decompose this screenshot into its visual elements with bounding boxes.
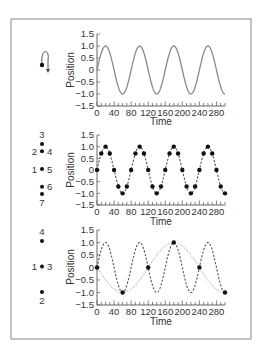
sample-point xyxy=(95,168,99,172)
position-dot xyxy=(40,192,44,196)
y-tick-label: 1.5 xyxy=(81,224,94,235)
x-tick-label: 80 xyxy=(126,107,137,118)
x-axis-label-1: Time xyxy=(150,216,172,227)
x-tick-label: 80 xyxy=(126,206,137,217)
sample-point xyxy=(137,144,141,148)
y-tick-label: −1.5 xyxy=(75,100,94,111)
sample-point xyxy=(108,151,112,155)
y-tick-label: 0.5 xyxy=(81,153,94,164)
x-tick-label: 200 xyxy=(174,306,190,317)
position-dot xyxy=(40,290,44,294)
sample-point xyxy=(201,151,205,155)
x-tick-label: 40 xyxy=(109,107,120,118)
frame-number: 3 xyxy=(39,129,44,140)
sample-point xyxy=(172,144,176,148)
y-tick-label: −1.0 xyxy=(75,88,94,99)
arrow-down-icon xyxy=(46,69,50,73)
sample-point xyxy=(197,265,201,269)
sample-point xyxy=(214,168,218,172)
y-tick-label: 0 xyxy=(89,164,94,175)
x-tick-label: 40 xyxy=(109,206,120,217)
y-tick-label: 1.0 xyxy=(81,237,94,248)
x-tick-label: 240 xyxy=(191,306,207,317)
series-line xyxy=(97,243,225,293)
x-axis-label-0: Time xyxy=(150,116,172,127)
y-tick-label: 0 xyxy=(89,262,94,273)
x-tick-label: 80 xyxy=(126,306,137,317)
position-dot xyxy=(40,239,44,243)
sample-point xyxy=(172,240,176,244)
x-tick-label: 280 xyxy=(209,206,225,217)
sample-point xyxy=(146,265,150,269)
sample-point xyxy=(95,265,99,269)
panel-aliased-sampling: 1.51.00.50−0.5−1.0−1.5040801201602002402… xyxy=(75,224,227,317)
sample-point xyxy=(120,191,124,195)
frame-number: 1 xyxy=(32,261,37,272)
panel-fast-sampling: 1.51.00.50−0.5−1.0−1.5040801201602002402… xyxy=(75,129,227,217)
sample-point xyxy=(206,144,210,148)
y-axis-label-1: Position xyxy=(65,152,76,188)
x-tick-label: 280 xyxy=(209,306,225,317)
y-tick-label: 1.5 xyxy=(81,28,94,39)
y-tick-label: −0.5 xyxy=(75,176,94,187)
frame-number: 5 xyxy=(47,164,52,175)
y-tick-label: 0.5 xyxy=(81,249,94,260)
position-diagram-fast: 3241567 xyxy=(32,129,53,208)
y-tick-label: 1.0 xyxy=(81,40,94,51)
y-tick-label: −1.5 xyxy=(75,199,94,210)
panel-continuous-motion: 1.51.00.50−0.5−1.0−1.5040801201602002402… xyxy=(75,28,225,118)
sample-point xyxy=(125,184,129,188)
frame-number: 2 xyxy=(32,146,37,157)
x-tick-label: 0 xyxy=(94,306,99,317)
sample-point xyxy=(176,151,180,155)
position-dot xyxy=(40,149,44,153)
sample-point xyxy=(223,290,227,294)
x-tick-label: 200 xyxy=(174,107,190,118)
y-tick-label: 0.5 xyxy=(81,52,94,63)
y-tick-label: −1.5 xyxy=(75,299,94,310)
x-tick-label: 280 xyxy=(209,107,225,118)
sample-point xyxy=(167,151,171,155)
sample-point xyxy=(184,184,188,188)
x-tick-label: 40 xyxy=(109,306,120,317)
sample-point xyxy=(223,191,227,195)
y-tick-label: 1.0 xyxy=(81,141,94,152)
sample-point xyxy=(210,151,214,155)
x-tick-label: 200 xyxy=(174,206,190,217)
position-dot xyxy=(40,142,44,146)
frame-number: 1 xyxy=(32,164,37,175)
sample-point xyxy=(116,184,120,188)
position-dot xyxy=(40,63,44,67)
rotation-icon xyxy=(40,52,50,73)
sample-point xyxy=(159,184,163,188)
aliasing-figure: 1.51.00.50−0.5−1.0−1.5040801201602002402… xyxy=(0,0,257,351)
sample-point xyxy=(142,151,146,155)
x-tick-label: 240 xyxy=(191,107,207,118)
frame-number: 6 xyxy=(47,181,52,192)
x-tick-label: 0 xyxy=(94,107,99,118)
position-dot xyxy=(40,167,44,171)
y-tick-label: −1.0 xyxy=(75,188,94,199)
y-tick-label: −0.5 xyxy=(75,76,94,87)
frame-number: 2 xyxy=(39,295,44,306)
position-dot xyxy=(40,265,44,269)
sample-point xyxy=(163,168,167,172)
frame-number: 4 xyxy=(39,226,44,237)
sample-point xyxy=(112,168,116,172)
sample-point xyxy=(155,191,159,195)
frame-number: 4 xyxy=(47,146,52,157)
sample-point xyxy=(193,184,197,188)
y-axis-label-2: Position xyxy=(65,249,76,285)
y-tick-label: −0.5 xyxy=(75,274,94,285)
sample-point xyxy=(180,168,184,172)
y-tick-label: 0 xyxy=(89,64,94,75)
x-axis-label-2: Time xyxy=(150,316,172,327)
frame-number: 7 xyxy=(39,197,44,208)
sample-point xyxy=(129,168,133,172)
y-tick-label: 1.5 xyxy=(81,129,94,140)
sample-point xyxy=(197,168,201,172)
x-tick-label: 240 xyxy=(191,206,207,217)
sample-point xyxy=(150,184,154,188)
position-diagram-aliased: 4132 xyxy=(32,226,53,306)
sample-point xyxy=(219,184,223,188)
